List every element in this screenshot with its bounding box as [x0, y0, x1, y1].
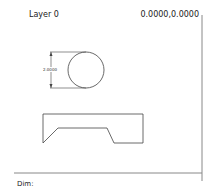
circle-shape[interactable] — [68, 52, 104, 88]
dimension-arrow-bottom — [50, 84, 53, 88]
profile-shape[interactable] — [43, 114, 143, 143]
circle-with-dimension[interactable]: 2.0000 — [40, 52, 104, 88]
drawing-canvas[interactable]: 2.0000 — [0, 0, 213, 195]
dimension-arrow-top — [50, 52, 53, 56]
dimension-text: 2.0000 — [43, 67, 57, 72]
command-prompt[interactable]: Dim: — [17, 180, 34, 188]
